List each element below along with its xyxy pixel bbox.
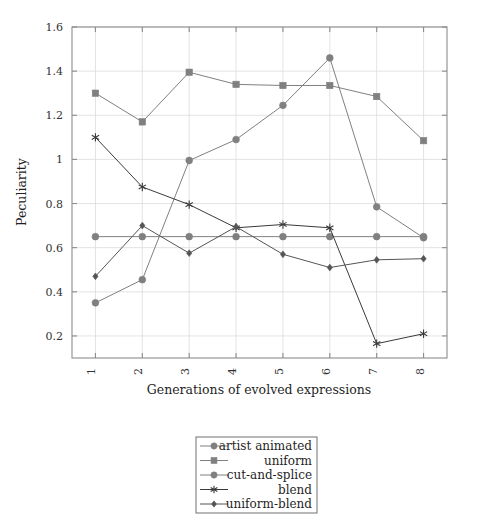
marker-circle — [233, 136, 240, 143]
x-tick-label-4: 4 — [226, 368, 239, 375]
marker-circle — [280, 233, 287, 240]
marker-circle — [326, 54, 333, 61]
y-tick-label-1: 1 — [56, 153, 63, 166]
chart-figure: 0.20.40.60.811.21.41.6 12345678 Peculiar… — [0, 0, 483, 529]
marker-circle — [373, 203, 380, 210]
y-tick-label-1.6: 1.6 — [46, 21, 64, 34]
marker-circle — [186, 233, 193, 240]
marker-square — [233, 81, 239, 87]
y-tick-label-0.6: 0.6 — [46, 242, 64, 255]
peculiarity-line-chart: 0.20.40.60.811.21.41.6 12345678 Peculiar… — [0, 0, 483, 529]
marker-square — [327, 82, 333, 88]
legend-label: uniform-blend — [226, 497, 312, 511]
legend-label: uniform — [264, 454, 313, 468]
y-axis-title: Peculiarity — [14, 157, 29, 226]
chart-legend: artist animateduniformcut-and-spliceblen… — [196, 437, 317, 513]
x-tick-label-7: 7 — [367, 368, 380, 375]
y-tick-label-1.2: 1.2 — [46, 109, 64, 122]
legend-label: cut-and-splice — [227, 468, 312, 482]
y-tick-label-0.8: 0.8 — [46, 198, 64, 211]
marker-circle — [92, 233, 99, 240]
marker-circle — [139, 233, 146, 240]
marker-square — [139, 119, 145, 125]
marker-square — [186, 69, 192, 75]
legend-label: artist animated — [219, 439, 313, 453]
legend-label: blend — [278, 483, 312, 497]
marker-square — [280, 82, 286, 88]
marker-square — [211, 458, 217, 464]
x-tick-label-8: 8 — [414, 368, 427, 375]
marker-circle — [280, 102, 287, 109]
y-tick-label-1.4: 1.4 — [46, 65, 64, 78]
x-tick-label-2: 2 — [132, 368, 145, 375]
marker-circle — [420, 234, 427, 241]
marker-circle — [92, 299, 99, 306]
marker-circle — [186, 157, 193, 164]
marker-circle — [211, 472, 217, 478]
x-tick-label-5: 5 — [273, 368, 286, 375]
x-tick-label-3: 3 — [179, 368, 192, 375]
marker-circle — [233, 233, 240, 240]
y-tick-label-0.4: 0.4 — [46, 286, 64, 299]
marker-circle — [373, 233, 380, 240]
marker-square — [92, 90, 98, 96]
x-tick-label-6: 6 — [320, 368, 333, 375]
marker-circle — [139, 276, 146, 283]
x-axis-title: Generations of evolved expressions — [147, 382, 371, 397]
x-tick-label-1: 1 — [85, 368, 98, 375]
y-tick-label-0.2: 0.2 — [46, 330, 64, 343]
marker-square — [420, 137, 426, 143]
marker-square — [373, 93, 379, 99]
marker-circle — [211, 443, 217, 449]
